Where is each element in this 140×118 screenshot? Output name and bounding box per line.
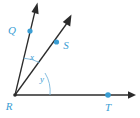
geometry-diagram: Q S R T x y	[0, 0, 140, 118]
point-label-t: T	[105, 101, 112, 113]
angle-y-arc	[45, 73, 50, 95]
point-dot-t	[105, 92, 111, 98]
ray-rs-line	[15, 23, 68, 96]
point-label-r: R	[5, 100, 13, 112]
point-dot-q	[27, 28, 32, 33]
point-dot-s	[54, 39, 59, 44]
vertex-dot-r	[13, 93, 17, 97]
geometry-figure: Q S R T x y	[0, 0, 140, 118]
angle-label-y: y	[39, 74, 44, 84]
point-label-s: S	[63, 39, 69, 51]
point-label-q: Q	[8, 24, 16, 36]
ray-rt-arrowhead-icon	[128, 91, 136, 99]
angle-label-x: x	[29, 52, 34, 62]
ray-rq-arrowhead-icon	[32, 3, 39, 15]
ray-rs-arrowhead-icon	[63, 15, 72, 27]
